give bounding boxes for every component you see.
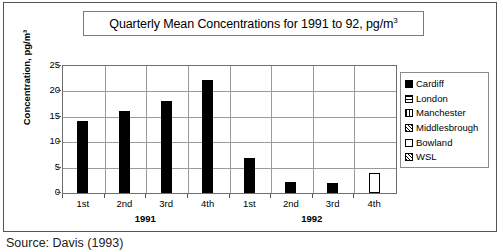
x-group-label-1991: 1991: [62, 213, 229, 224]
legend-label: Middlesbrough: [416, 123, 478, 133]
x-tick-label: 3rd: [145, 198, 187, 209]
y-axis-title: Concentration, pg/m³: [21, 3, 32, 153]
x-tick-mark: [270, 194, 271, 198]
gridline-vertical: [188, 66, 189, 193]
legend-item-middlesbrough: Middlesbrough: [405, 121, 488, 136]
figure-screenshot: Quarterly Mean Concentrations for 1991 t…: [0, 0, 503, 252]
x-tick-label: 4th: [187, 198, 229, 209]
legend-label: WSL: [416, 152, 437, 162]
x-tick-mark: [229, 194, 230, 198]
chart-title-superscript: 3: [393, 16, 397, 25]
x-tick-label: 1st: [229, 198, 271, 209]
x-tick-mark: [312, 194, 313, 198]
legend-label: Bowland: [416, 138, 452, 148]
legend-swatch-bowland: [405, 139, 413, 147]
legend-swatch-wsl: [405, 153, 413, 161]
x-tick-label: 2nd: [104, 198, 146, 209]
legend-label: London: [416, 94, 448, 104]
legend-swatch-cardiff: [405, 80, 413, 88]
y-tick-mark: [57, 192, 61, 193]
chart-title-box: Quarterly Mean Concentrations for 1991 t…: [83, 11, 424, 36]
figure-caption: Source: Davis (1993): [6, 236, 123, 252]
legend-swatch-middlesbrough: [405, 124, 413, 132]
x-tick-label: 2nd: [270, 198, 312, 209]
y-axis-title-text: Concentration, pg/m³: [21, 30, 32, 126]
y-tick-mark: [57, 141, 61, 142]
legend-label: Cardiff: [416, 79, 444, 89]
x-tick-mark: [353, 194, 354, 198]
gridline-vertical: [354, 66, 355, 193]
x-tick-mark: [104, 194, 105, 198]
gridline-vertical: [105, 66, 106, 193]
x-tick-label: 3rd: [312, 198, 354, 209]
y-tick-mark: [57, 90, 61, 91]
x-tick-mark: [187, 194, 188, 198]
x-tick-mark: [145, 194, 146, 198]
y-tick-mark: [57, 167, 61, 168]
chart-legend: CardiffLondonManchesterMiddlesbroughBowl…: [400, 72, 489, 168]
legend-item-cardiff: Cardiff: [405, 77, 488, 92]
x-group-label-1992: 1992: [229, 213, 396, 224]
chart-title-main: Quarterly Mean Concentrations for 1991 t…: [109, 17, 393, 31]
legend-swatch-manchester: [405, 109, 413, 117]
legend-item-london: London: [405, 92, 488, 107]
y-axis-tick-labels: 0510152025: [36, 59, 60, 199]
legend-item-bowland: Bowland: [405, 135, 488, 150]
x-axis-tick-labels: 1st2nd3rd4th1st2nd3rd4th: [62, 198, 397, 212]
chart-title: Quarterly Mean Concentrations for 1991 t…: [109, 16, 397, 31]
x-axis-group-labels: 19911992: [62, 213, 397, 226]
legend-label: Manchester: [416, 108, 466, 118]
gridline-vertical: [271, 66, 272, 193]
y-tick-mark: [57, 116, 61, 117]
gridline-vertical: [230, 66, 231, 193]
x-tick-label: 1st: [62, 198, 104, 209]
legend-item-wsl: WSL: [405, 150, 488, 165]
x-tick-mark: [62, 194, 63, 198]
plot-area: [62, 65, 397, 194]
gridline-vertical: [146, 66, 147, 193]
legend-swatch-london: [405, 95, 413, 103]
x-tick-label: 4th: [353, 198, 395, 209]
gridline-vertical: [313, 66, 314, 193]
legend-item-manchester: Manchester: [405, 106, 488, 121]
y-tick-mark: [57, 65, 61, 66]
